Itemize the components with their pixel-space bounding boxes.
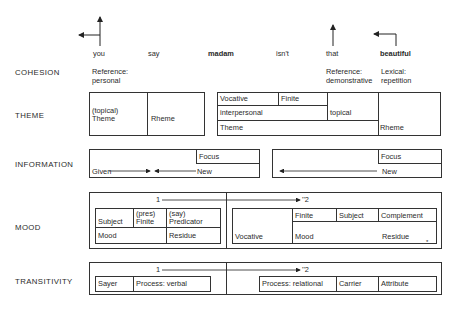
divider: [217, 120, 378, 121]
divider: [278, 92, 279, 105]
vocative-cell: Vocative: [220, 94, 248, 103]
transitivity-label: TRANSITIVITY: [15, 277, 73, 286]
word-beautiful: beautiful: [380, 49, 411, 58]
cohesion-ref-personal-2: personal: [92, 76, 120, 85]
subject-cell: Subject: [339, 211, 364, 220]
information-label: INFORMATION: [15, 160, 73, 169]
focus-cell: Focus: [199, 152, 219, 161]
divider: [166, 208, 167, 244]
divider: [292, 221, 437, 222]
divider: [217, 105, 327, 106]
mood-cell: Mood: [98, 231, 117, 240]
clause-2-marker: ''2: [302, 265, 309, 274]
cohesion-ref-demonstrative-2: demonstrative: [326, 76, 372, 85]
cohesion-label: COHESION: [15, 68, 60, 77]
theme-cell: Theme: [92, 114, 115, 123]
divider: [327, 92, 328, 120]
topical-cell: topical: [330, 108, 351, 117]
cohesion-lexical-2: repetition: [381, 76, 411, 85]
carrier-cell: Carrier: [339, 279, 362, 288]
divider: [133, 208, 134, 227]
divider: [378, 208, 379, 221]
divider: [378, 92, 379, 136]
word-madam: madam: [208, 49, 234, 58]
divider: [95, 227, 221, 228]
clause-2-marker: ''2: [302, 195, 309, 204]
cohesion-ref-personal-1: Reference:: [92, 67, 128, 76]
finite-cell: Finite: [136, 217, 154, 226]
attribute-cell: Attribute: [381, 279, 409, 288]
divider: [196, 149, 197, 163]
divider: [147, 92, 148, 136]
process-relational-cell: Process: relational: [262, 279, 323, 288]
word-that: that: [326, 49, 338, 58]
complement-cell: Complement: [381, 211, 423, 220]
word-you: you: [93, 49, 105, 58]
finite-cell: Finite: [295, 211, 313, 220]
interpersonal-cell: interpersonal: [220, 108, 263, 117]
divider: [336, 276, 337, 292]
given-label: Given: [92, 167, 111, 176]
clause-1-marker: 1: [156, 195, 160, 204]
mood-label: MOOD: [15, 223, 41, 232]
divider: [196, 163, 260, 164]
vocative-cell: Vocative: [235, 232, 263, 241]
predicator-cell: Predicator: [169, 217, 203, 226]
footnote-mark: *: [426, 238, 428, 247]
divider: [378, 163, 442, 164]
residue-cell: Residue: [169, 231, 196, 240]
sayer-cell: Sayer: [98, 279, 117, 288]
theme-cell: Theme: [220, 123, 243, 132]
word-isnt: isn't: [276, 49, 289, 58]
theme-label: THEME: [15, 111, 44, 120]
new-label: New: [382, 167, 397, 176]
subject-cell: Subject: [98, 217, 123, 226]
mood-cell: Mood: [295, 232, 314, 241]
finite-cell: Finite: [281, 94, 299, 103]
clause-1-marker: 1: [156, 265, 160, 274]
residue-cell: Residue: [382, 232, 409, 241]
rheme-cell: Rheme: [151, 114, 175, 123]
divider: [378, 149, 379, 163]
cohesion-ref-demonstrative-1: Reference:: [326, 67, 362, 76]
new-label: New: [197, 167, 212, 176]
word-say: say: [148, 49, 160, 58]
process-verbal-cell: Process: verbal: [136, 279, 187, 288]
cohesion-lexical-1: Lexical:: [381, 67, 406, 76]
divider: [133, 276, 134, 292]
divider: [292, 208, 293, 244]
rheme-cell: Rheme: [380, 123, 404, 132]
divider: [336, 208, 337, 221]
divider: [378, 276, 379, 292]
focus-cell: Focus: [381, 152, 401, 161]
clause-divider: [226, 262, 227, 295]
clause-divider: [226, 192, 227, 249]
